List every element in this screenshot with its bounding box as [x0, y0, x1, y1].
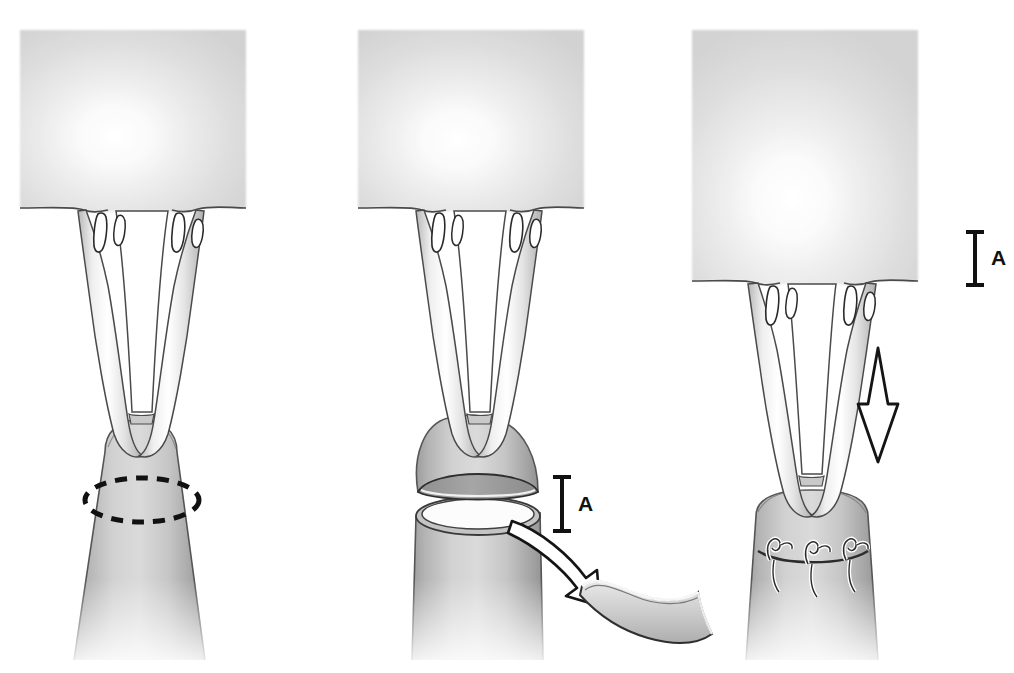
- panel-2-distal-stump: [412, 497, 543, 660]
- measure-label-a-panel-3: A: [991, 246, 1006, 269]
- panel-2-upper-chamber: [358, 30, 584, 213]
- panel-3-upper-chamber: [692, 30, 918, 286]
- figure-canvas: A: [0, 0, 1014, 673]
- panel-1-upper-chamber: [20, 30, 246, 213]
- measure-label-a-panel-2: A: [578, 492, 593, 515]
- surgical-figure: A: [0, 0, 1014, 673]
